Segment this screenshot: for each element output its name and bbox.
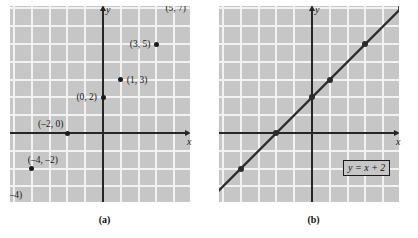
gridline-horizontal xyxy=(10,61,190,63)
point-label: (–4, –2) xyxy=(28,155,58,165)
point-label: (–2, 0) xyxy=(38,119,63,129)
gridline-vertical xyxy=(120,6,122,202)
y-axis-label-b: y xyxy=(315,5,319,15)
gridline-vertical xyxy=(31,6,33,202)
plot-area-a: (–6, –4)(–4, –2)(–2, 0)(0, 2)(1, 3)(3, 5… xyxy=(10,6,190,202)
x-axis-label-b: x xyxy=(396,137,400,147)
data-point xyxy=(327,77,333,83)
equation-label-b: y = x + 2 xyxy=(343,160,390,176)
data-point xyxy=(65,131,70,136)
gridline-horizontal xyxy=(10,114,190,116)
point-label: (1, 3) xyxy=(127,75,148,85)
data-point xyxy=(238,166,244,172)
y-axis-a xyxy=(102,10,104,202)
point-label: (3, 5) xyxy=(130,39,151,49)
y-axis-label-a: y xyxy=(106,5,110,15)
x-axis-label-a: x xyxy=(187,137,191,147)
panel-a: (–6, –4)(–4, –2)(–2, 0)(0, 2)(1, 3)(3, 5… xyxy=(0,0,209,238)
gridline-vertical xyxy=(49,6,51,202)
data-point xyxy=(154,42,159,47)
gridline-vertical xyxy=(155,6,157,202)
point-label: (5, 7) xyxy=(165,6,186,13)
gridline-vertical xyxy=(66,6,68,202)
y-axis-arrow-a xyxy=(100,6,106,11)
gridline-horizontal xyxy=(10,168,190,170)
gridline-horizontal xyxy=(10,43,190,45)
gridline-vertical xyxy=(138,6,140,202)
caption-b: (b) xyxy=(209,214,418,225)
data-point xyxy=(101,95,106,100)
gridline-horizontal xyxy=(10,25,190,27)
x-axis-a xyxy=(10,132,186,134)
gridline-vertical xyxy=(13,6,15,202)
figure-container: (–6, –4)(–4, –2)(–2, 0)(0, 2)(1, 3)(3, 5… xyxy=(0,0,418,238)
gridline-horizontal xyxy=(10,150,190,152)
panel-b: y x y = x + 2 (b) xyxy=(209,0,418,238)
gridline-horizontal xyxy=(10,79,190,81)
gridline-vertical xyxy=(84,6,86,202)
gridline-horizontal xyxy=(10,185,190,187)
caption-a: (a) xyxy=(0,214,209,225)
point-label: (0, 2) xyxy=(76,92,97,102)
point-label: (–6, –4) xyxy=(10,190,22,200)
grid-background-a xyxy=(10,6,190,202)
gridline-vertical xyxy=(173,6,175,202)
